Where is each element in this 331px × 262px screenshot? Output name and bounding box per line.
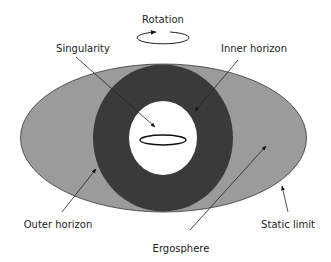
inner-horizon-disc	[129, 101, 197, 175]
static-limit-leader	[282, 186, 288, 212]
label-static-limit: Static limit	[261, 219, 315, 230]
rotation-arrow-icon	[137, 32, 189, 44]
label-rotation: Rotation	[142, 14, 184, 25]
label-inner-horizon: Inner horizon	[221, 43, 287, 54]
label-ergosphere: Ergosphere	[153, 243, 210, 254]
black-hole-diagram: Rotation Singularity Inner horizon Outer…	[0, 0, 331, 262]
label-singularity: Singularity	[56, 43, 110, 54]
label-outer-horizon: Outer horizon	[24, 219, 93, 230]
